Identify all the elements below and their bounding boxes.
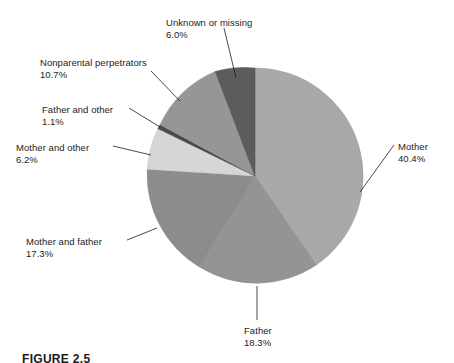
pie-slices <box>147 67 363 283</box>
slice-label-mother-pct: 40.4% <box>398 153 428 165</box>
slice-label-father-and-other-name: Father and other <box>42 104 113 116</box>
slice-label-father: Father 18.3% <box>244 325 272 348</box>
slice-label-unknown-or-missing: Unknown or missing 6.0% <box>166 17 252 40</box>
slice-label-mother-and-father-pct: 17.3% <box>26 248 102 260</box>
slice-label-mother-and-father-name: Mother and father <box>26 236 102 248</box>
slice-label-mother-and-other-name: Mother and other <box>16 142 89 154</box>
slice-label-father-and-other: Father and other 1.1% <box>42 104 113 127</box>
slice-label-unknown-or-missing-pct: 6.0% <box>166 29 252 41</box>
slice-label-mother-and-father: Mother and father 17.3% <box>26 236 102 259</box>
slice-label-mother: Mother 40.4% <box>398 141 428 164</box>
slice-label-nonparental-perpetrators-pct: 10.7% <box>40 69 147 81</box>
figure-container: Unknown or missing 6.0% Nonparental perp… <box>0 0 454 363</box>
leader-line-mother <box>360 145 394 192</box>
slice-label-mother-and-other-pct: 6.2% <box>16 154 89 166</box>
slice-label-father-pct: 18.3% <box>244 337 272 349</box>
leader-line-mother-other <box>113 146 151 155</box>
slice-label-father-and-other-pct: 1.1% <box>42 116 113 128</box>
slice-label-nonparental-perpetrators-name: Nonparental perpetrators <box>40 57 147 69</box>
slice-label-mother-name: Mother <box>398 141 428 153</box>
slice-label-unknown-or-missing-name: Unknown or missing <box>166 17 252 29</box>
leader-line-father-other <box>129 108 160 127</box>
leader-line-nonparental <box>151 71 180 101</box>
slice-label-mother-and-other: Mother and other 6.2% <box>16 142 89 165</box>
slice-label-father-name: Father <box>244 325 272 337</box>
figure-caption: FIGURE 2.5 <box>22 352 90 363</box>
slice-label-nonparental-perpetrators: Nonparental perpetrators 10.7% <box>40 57 147 80</box>
pie-chart <box>0 0 454 363</box>
leader-line-mother-father <box>127 228 157 240</box>
